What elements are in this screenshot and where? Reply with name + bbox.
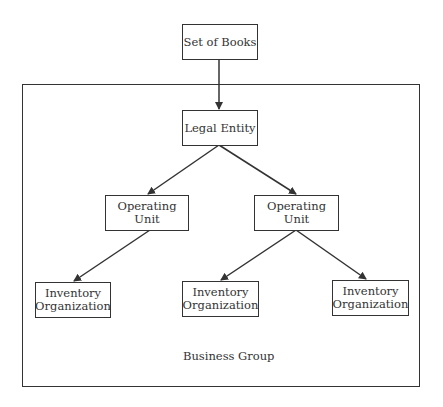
operating-unit-left-node: Operating Unit [105, 195, 189, 231]
inventory-organization-3-node: Inventory Organization [332, 280, 409, 316]
operating-unit-left-label: Operating Unit [106, 200, 188, 226]
business-group-label: Business Group [183, 349, 274, 363]
connector-arrows [0, 0, 443, 407]
inventory-organization-2-line2: Organization [183, 299, 259, 312]
inventory-organization-1-line2: Organization [35, 300, 111, 313]
operating-unit-right-label: Operating Unit [255, 200, 338, 226]
inventory-organization-2-node: Inventory Organization [182, 281, 259, 317]
set-of-books-node: Set of Books [182, 24, 258, 60]
legal-entity-label: Legal Entity [184, 122, 255, 135]
inventory-organization-1-node: Inventory Organization [35, 282, 111, 318]
operating-unit-right-node: Operating Unit [254, 195, 339, 231]
inventory-organization-3-line2: Organization [333, 298, 409, 311]
legal-entity-node: Legal Entity [182, 110, 258, 146]
set-of-books-label: Set of Books [184, 36, 257, 49]
